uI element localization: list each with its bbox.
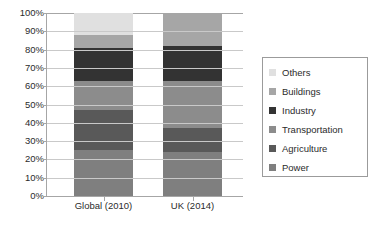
legend-label: Transportation xyxy=(282,124,343,135)
y-axis: 100%90%80%70%60%50%40%30%20%10%0% xyxy=(0,0,44,233)
legend-item[interactable]: Transportation xyxy=(269,120,363,139)
legend-swatch-icon xyxy=(269,69,276,76)
stacked-bar-chart: 100%90%80%70%60%50%40%30%20%10%0% Others… xyxy=(0,0,374,233)
y-tick-label: 40% xyxy=(2,118,44,128)
legend-swatch-icon xyxy=(269,126,276,133)
legend-item[interactable]: Agriculture xyxy=(269,139,363,158)
y-tick-mark xyxy=(43,105,47,106)
bar-segment-transportation[interactable] xyxy=(74,81,133,110)
y-tick-label: 50% xyxy=(2,100,44,110)
gridline xyxy=(47,86,243,87)
gridline xyxy=(47,31,243,32)
y-tick-mark xyxy=(43,159,47,160)
y-tick-mark xyxy=(43,68,47,69)
x-tick-mark xyxy=(104,197,105,201)
y-tick-label: 0% xyxy=(2,191,44,201)
legend-swatch-icon xyxy=(269,164,276,171)
legend-item[interactable]: Others xyxy=(269,63,363,82)
legend-label: Agriculture xyxy=(282,143,327,154)
x-tick-mark xyxy=(193,197,194,201)
x-tick-label: UK (2014) xyxy=(138,200,248,211)
bar-segment-buildings[interactable] xyxy=(163,13,222,46)
legend-swatch-icon xyxy=(269,107,276,114)
y-tick-label: 20% xyxy=(2,154,44,164)
y-tick-mark xyxy=(43,123,47,124)
gridline xyxy=(47,105,243,106)
y-tick-mark xyxy=(43,50,47,51)
legend-label: Power xyxy=(282,162,309,173)
gridline xyxy=(47,159,243,160)
gridline xyxy=(47,50,243,51)
legend-item[interactable]: Industry xyxy=(269,101,363,120)
y-tick-label: 10% xyxy=(2,173,44,183)
y-tick-mark xyxy=(43,141,47,142)
y-tick-label: 100% xyxy=(2,8,44,18)
y-tick-label: 80% xyxy=(2,45,44,55)
y-tick-mark xyxy=(43,196,47,197)
y-tick-label: 70% xyxy=(2,63,44,73)
plot-area xyxy=(47,13,243,196)
legend-swatch-icon xyxy=(269,88,276,95)
bar-segment-industry[interactable] xyxy=(163,46,222,81)
legend-item[interactable]: Buildings xyxy=(269,82,363,101)
bar-segment-agriculture[interactable] xyxy=(74,110,133,150)
chart-legend: OthersBuildingsIndustryTransportationAgr… xyxy=(262,57,368,177)
gridline xyxy=(47,178,243,179)
x-axis-line xyxy=(46,196,243,197)
legend-label: Others xyxy=(282,67,311,78)
legend-item[interactable]: Power xyxy=(269,158,363,177)
y-tick-label: 30% xyxy=(2,136,44,146)
y-tick-mark xyxy=(43,178,47,179)
bar-segment-power[interactable] xyxy=(74,150,133,196)
y-tick-label: 60% xyxy=(2,81,44,91)
y-tick-mark xyxy=(43,31,47,32)
gridline xyxy=(47,123,243,124)
legend-swatch-icon xyxy=(269,145,276,152)
y-tick-mark xyxy=(43,13,47,14)
gridline xyxy=(47,141,243,142)
gridline xyxy=(47,68,243,69)
bar-segment-industry[interactable] xyxy=(74,48,133,81)
y-tick-label: 90% xyxy=(2,26,44,36)
legend-label: Buildings xyxy=(282,86,321,97)
y-tick-mark xyxy=(43,86,47,87)
legend-label: Industry xyxy=(282,105,316,116)
bar-segment-buildings[interactable] xyxy=(74,35,133,48)
